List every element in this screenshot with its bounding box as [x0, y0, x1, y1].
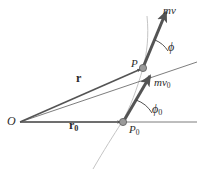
tangent-reference-line-upper [20, 62, 197, 122]
label-P0-base: P [129, 123, 136, 135]
label-vector-r: r [76, 72, 81, 84]
label-point-P: P [131, 58, 138, 69]
label-momentum-mv: mv [163, 5, 176, 16]
vector-mv [142, 12, 166, 70]
point-marker-P [139, 64, 146, 71]
label-phi0-subscript: 0 [158, 108, 162, 117]
label-point-P0: P0 [129, 124, 139, 135]
label-angle-phi: ϕ [168, 41, 174, 53]
label-r0-subscript: 0 [74, 124, 78, 133]
angle-arc-phi [155, 40, 168, 51]
label-vector-r0: r0 [69, 119, 78, 131]
point-marker-P0 [119, 118, 126, 125]
label-angle-phi0: ϕ0 [152, 103, 162, 115]
angle-arc-phi0 [136, 100, 152, 113]
label-origin-O: O [7, 115, 16, 127]
physics-diagram-figure: O r0 r P P0 mv mv0 ϕ ϕ0 [0, 0, 197, 170]
label-mv0-subscript: 0 [167, 81, 171, 90]
label-P0-subscript: 0 [136, 128, 140, 137]
label-momentum-mv0: mv0 [154, 77, 171, 88]
label-mv0-base: mv [154, 76, 167, 88]
